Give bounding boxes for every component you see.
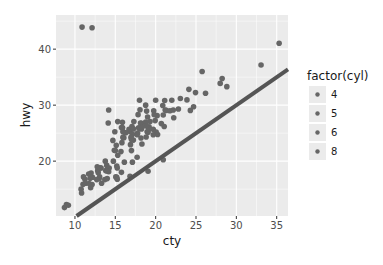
x-tick-label: 15 <box>109 220 122 231</box>
data-point <box>129 148 135 154</box>
legend-entry: 6 <box>309 124 337 141</box>
data-point <box>131 119 137 125</box>
legend-point-icon <box>315 149 319 153</box>
legend-label: 8 <box>331 146 337 157</box>
legend-entry: 5 <box>309 105 337 122</box>
data-point <box>144 108 150 114</box>
legend-entries: 4568 <box>309 86 337 160</box>
data-point <box>150 132 156 138</box>
data-point <box>106 107 112 113</box>
data-point <box>147 119 153 125</box>
data-point <box>131 126 137 132</box>
data-point <box>105 120 111 126</box>
data-point <box>120 135 126 141</box>
legend-point-icon <box>315 92 319 96</box>
data-point <box>143 134 149 140</box>
data-point <box>193 90 199 96</box>
data-point <box>203 90 209 96</box>
data-point <box>119 170 125 176</box>
data-point <box>118 149 124 155</box>
data-point <box>114 165 120 171</box>
data-point <box>95 170 101 176</box>
legend-title: factor(cyl) <box>307 69 369 83</box>
data-point <box>171 115 177 121</box>
legend-point-icon <box>315 130 319 134</box>
data-point <box>81 174 87 180</box>
data-point <box>137 97 143 103</box>
data-point <box>170 107 176 113</box>
data-point <box>224 84 230 90</box>
data-point <box>94 164 100 170</box>
data-point <box>139 124 145 130</box>
data-point <box>94 177 100 183</box>
data-point <box>120 125 126 131</box>
scatter-plot: 101520253035 203040 cty hwy factor(cyl) … <box>0 0 383 265</box>
legend-entry: 4 <box>309 86 337 103</box>
data-point <box>159 121 165 127</box>
data-point <box>129 137 135 143</box>
data-point <box>128 142 134 148</box>
legend-entry: 8 <box>309 143 337 160</box>
data-point <box>162 98 168 104</box>
data-point <box>186 87 192 93</box>
data-point <box>162 107 168 113</box>
x-tick-label: 35 <box>270 220 283 231</box>
data-point <box>258 62 264 68</box>
data-point <box>111 158 117 164</box>
data-point <box>104 168 110 174</box>
data-point <box>88 170 94 176</box>
data-point <box>139 141 145 147</box>
data-point <box>217 81 223 87</box>
data-point <box>122 159 128 165</box>
legend-label: 5 <box>331 108 337 119</box>
data-point <box>191 104 197 110</box>
data-point <box>135 112 141 118</box>
x-axis: 101520253035 <box>69 216 283 231</box>
data-point <box>219 76 225 82</box>
data-point <box>199 69 205 75</box>
data-point <box>143 102 149 108</box>
data-point <box>152 118 158 124</box>
data-point <box>151 112 157 118</box>
data-point <box>119 140 125 146</box>
data-point <box>112 129 118 135</box>
data-point <box>115 119 121 125</box>
data-point <box>134 154 140 160</box>
x-tick-label: 30 <box>230 220 243 231</box>
x-tick-label: 20 <box>149 220 162 231</box>
y-tick-label: 40 <box>38 44 51 55</box>
data-point <box>79 24 85 30</box>
data-point <box>89 25 95 31</box>
data-point <box>184 97 190 103</box>
x-tick-label: 10 <box>69 220 82 231</box>
data-point <box>86 181 92 187</box>
data-point <box>110 138 116 144</box>
y-tick-label: 30 <box>38 100 51 111</box>
y-tick-label: 20 <box>38 156 51 167</box>
data-point <box>178 96 184 102</box>
data-point <box>130 159 136 165</box>
data-point <box>137 107 143 113</box>
data-point <box>66 202 72 208</box>
y-axis: 203040 <box>38 44 56 167</box>
legend-label: 4 <box>331 89 337 100</box>
data-point <box>153 97 159 103</box>
data-point <box>120 119 126 125</box>
data-point <box>104 176 110 182</box>
data-point <box>160 112 166 118</box>
data-point <box>169 97 175 103</box>
data-point <box>276 40 282 46</box>
data-point <box>176 106 182 112</box>
data-point <box>114 174 120 180</box>
data-point <box>103 158 109 164</box>
y-axis-title: hwy <box>19 103 33 128</box>
data-point <box>113 143 119 149</box>
data-point <box>79 190 85 196</box>
x-axis-title: cty <box>163 234 181 248</box>
data-point <box>134 132 140 138</box>
data-point <box>113 148 119 154</box>
legend: factor(cyl) 4568 <box>307 69 369 160</box>
legend-point-icon <box>315 111 319 115</box>
legend-label: 6 <box>331 127 337 138</box>
x-tick-label: 25 <box>190 220 203 231</box>
